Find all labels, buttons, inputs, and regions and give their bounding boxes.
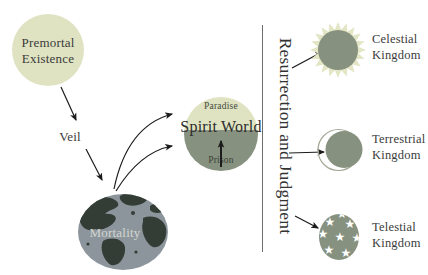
star-icon: ★ — [324, 243, 335, 257]
star-icon: ★ — [345, 217, 356, 231]
plan-of-salvation-diagram: Premortal Existence Veil Mortality Parad… — [0, 0, 428, 275]
telestial-node: ★ ★ ★ ★ ★ ★ ★ ★ Telestial Kingdom — [318, 207, 421, 260]
sun-icon — [318, 30, 358, 70]
arrow-premortal-to-veil — [61, 87, 76, 120]
diagram-canvas: Premortal Existence Veil Mortality Parad… — [0, 0, 428, 275]
telestial-label-line2: Kingdom — [372, 236, 421, 250]
terrestrial-label-line2: Kingdom — [372, 148, 421, 162]
terrestrial-node: Terrestrial Kingdom — [318, 130, 426, 171]
premortal-label-line2: Existence — [22, 51, 74, 66]
veil-label: Veil — [59, 129, 81, 144]
telestial-stars: ★ ★ ★ ★ ★ ★ ★ ★ — [318, 207, 363, 260]
star-icon: ★ — [341, 246, 352, 260]
paradise-label: Paradise — [204, 101, 238, 111]
mortality-node: Mortality — [78, 193, 168, 270]
telestial-label-line1: Telestial — [372, 220, 416, 234]
star-icon: ★ — [352, 231, 363, 245]
terrestrial-label-line1: Terrestrial — [372, 132, 426, 146]
arrow-veil-to-mortality — [86, 149, 102, 180]
star-icon: ★ — [318, 227, 329, 241]
spirit-world-label: Spirit World — [180, 118, 261, 136]
premortal-existence-node: Premortal Existence — [12, 14, 84, 86]
arrow-mortality-to-paradise — [114, 114, 172, 189]
star-icon: ★ — [335, 230, 346, 244]
arrow-mortality-to-prison — [116, 146, 172, 191]
spirit-world-node: Paradise Spirit World Prison — [180, 96, 261, 172]
arrow-to-telestial — [295, 216, 318, 228]
mortality-label: Mortality — [90, 225, 141, 240]
premortal-circle — [12, 14, 84, 86]
celestial-label-line1: Celestial — [372, 32, 418, 46]
moon-icon — [326, 131, 363, 168]
celestial-node: Celestial Kingdom — [310, 22, 421, 78]
premortal-label-line1: Premortal — [21, 35, 74, 50]
celestial-label-line2: Kingdom — [372, 48, 421, 62]
